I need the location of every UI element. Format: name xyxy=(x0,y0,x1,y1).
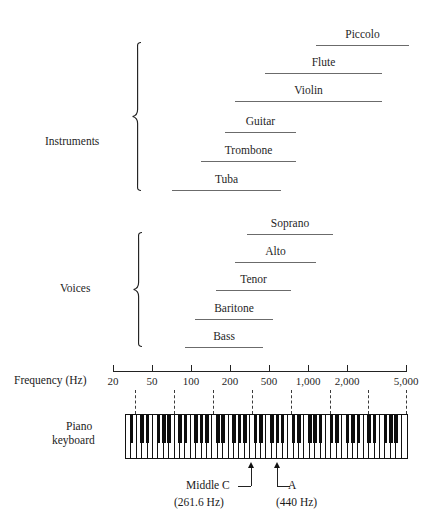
black-key[interactable] xyxy=(389,415,393,443)
black-key[interactable] xyxy=(276,415,280,443)
black-key[interactable] xyxy=(162,415,166,443)
keyboard-title-line1: Piano xyxy=(66,420,92,433)
axis-gridline xyxy=(252,390,253,414)
axis-gridline xyxy=(330,390,331,414)
range-bar-tuba xyxy=(172,190,281,191)
range-bar-baritone xyxy=(195,319,273,320)
black-key[interactable] xyxy=(308,415,312,443)
axis-tick-label: 1,000 xyxy=(286,375,330,387)
range-bar-bass xyxy=(185,347,263,348)
black-key[interactable] xyxy=(221,415,225,443)
axis-gridline xyxy=(368,390,369,414)
axis-tick-label: 500 xyxy=(247,375,291,387)
group-brace-voices xyxy=(133,232,142,347)
axis-tick-label: 50 xyxy=(130,375,174,387)
black-key[interactable] xyxy=(373,415,377,443)
range-label-piccolo: Piccolo xyxy=(303,28,423,40)
black-key[interactable] xyxy=(330,415,334,443)
a440-value: (440 Hz) xyxy=(276,495,317,509)
middle-c-label: Middle C xyxy=(186,478,230,492)
black-key[interactable] xyxy=(130,415,134,443)
black-key[interactable] xyxy=(292,415,296,443)
range-label-guitar: Guitar xyxy=(201,115,321,127)
black-key[interactable] xyxy=(146,415,150,443)
axis-tick-label: 20 xyxy=(91,375,135,387)
axis-tick-label: 200 xyxy=(208,375,252,387)
range-bar-soprano xyxy=(247,234,333,235)
black-key[interactable] xyxy=(178,415,182,443)
black-key[interactable] xyxy=(238,415,242,443)
axis-tick xyxy=(308,365,309,371)
black-key[interactable] xyxy=(216,415,220,443)
black-key[interactable] xyxy=(167,415,171,443)
black-key[interactable] xyxy=(232,415,236,443)
range-label-bass: Bass xyxy=(164,330,284,342)
range-label-violin: Violin xyxy=(249,84,369,96)
axis-tick xyxy=(113,365,114,371)
a440-leader-vertical xyxy=(277,468,278,486)
range-bar-guitar xyxy=(225,132,296,133)
black-key[interactable] xyxy=(200,415,204,443)
axis-tick-label: 2,000 xyxy=(325,375,369,387)
black-key[interactable] xyxy=(394,415,398,443)
axis-tick xyxy=(230,365,231,371)
black-key[interactable] xyxy=(254,415,258,443)
black-key[interactable] xyxy=(140,415,144,443)
black-key[interactable] xyxy=(346,415,350,443)
black-key[interactable] xyxy=(270,415,274,443)
axis-tick-label: 100 xyxy=(169,375,213,387)
axis-gridline xyxy=(135,390,136,414)
black-key[interactable] xyxy=(367,415,371,443)
keyboard-title-line2: keyboard xyxy=(52,434,95,447)
black-key[interactable] xyxy=(243,415,247,443)
black-key[interactable] xyxy=(319,415,323,443)
axis-tick xyxy=(406,365,407,371)
range-label-tuba: Tuba xyxy=(167,173,287,185)
black-key[interactable] xyxy=(184,415,188,443)
black-key[interactable] xyxy=(351,415,355,443)
black-key[interactable] xyxy=(205,415,209,443)
axis-gridline xyxy=(174,390,175,414)
black-key[interactable] xyxy=(313,415,317,443)
black-key[interactable] xyxy=(281,415,285,443)
range-label-soprano: Soprano xyxy=(230,217,350,229)
black-key[interactable] xyxy=(297,415,301,443)
range-bar-tenor xyxy=(216,290,291,291)
range-bar-trombone xyxy=(201,161,296,162)
axis-gridline xyxy=(213,390,214,414)
axis-gridline xyxy=(406,390,407,414)
black-key[interactable] xyxy=(194,415,198,443)
axis-gridline xyxy=(291,390,292,414)
black-key[interactable] xyxy=(335,415,339,443)
range-label-flute: Flute xyxy=(264,56,384,68)
axis-tick xyxy=(347,365,348,371)
range-label-trombone: Trombone xyxy=(189,144,309,156)
range-bar-violin xyxy=(235,101,382,102)
black-key[interactable] xyxy=(259,415,263,443)
middle-c-leader-vertical xyxy=(251,468,252,486)
range-label-tenor: Tenor xyxy=(194,273,314,285)
axis-tick xyxy=(152,365,153,371)
group-label-voices: Voices xyxy=(60,282,90,294)
range-bar-flute xyxy=(265,73,382,74)
a440-label: A xyxy=(288,478,296,492)
frequency-axis-line xyxy=(113,371,407,372)
range-bar-alto xyxy=(235,262,316,263)
piano-keyboard[interactable] xyxy=(125,414,408,459)
axis-tick-label: 5,000 xyxy=(384,375,428,387)
range-label-alto: Alto xyxy=(216,245,336,257)
frequency-axis-title: Frequency (Hz) xyxy=(14,374,86,386)
white-key[interactable] xyxy=(402,415,407,458)
middle-c-leader-horizontal xyxy=(238,486,251,487)
range-bar-piccolo xyxy=(316,45,409,46)
range-label-baritone: Baritone xyxy=(174,302,294,314)
axis-tick xyxy=(269,365,270,371)
black-key[interactable] xyxy=(357,415,361,443)
frequency-range-figure: InstrumentsPiccoloFluteViolinGuitarTromb… xyxy=(0,0,442,524)
black-key[interactable] xyxy=(384,415,388,443)
middle-c-value: (261.6 Hz) xyxy=(174,495,224,509)
black-key[interactable] xyxy=(157,415,161,443)
group-brace-instruments xyxy=(132,42,141,191)
group-label-instruments: Instruments xyxy=(45,135,99,147)
axis-tick xyxy=(191,365,192,371)
